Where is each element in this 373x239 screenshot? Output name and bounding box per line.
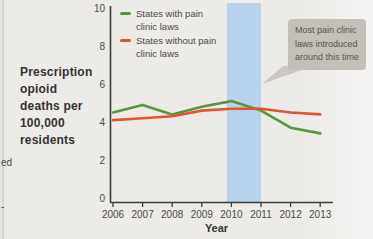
x-tick-label: 2012 <box>279 209 302 220</box>
x-tick-label: 2009 <box>191 209 214 220</box>
legend-label-with-laws: States with pain clinic laws <box>136 7 203 33</box>
x-tick-label: 2008 <box>161 209 184 220</box>
legend-swatch-with-laws-icon <box>120 12 131 16</box>
legend-swatch-without-laws-icon <box>120 39 131 43</box>
x-tick-label: 2006 <box>102 209 125 220</box>
chart-figure: ed - Prescription opioid deaths per 100,… <box>0 0 373 239</box>
annotation-line: around this time <box>295 51 359 65</box>
legend-item-without-laws: States without pain clinic laws <box>120 34 216 60</box>
legend-label-line: States without pain <box>136 34 216 47</box>
y-tick-label: 4 <box>99 117 105 128</box>
x-axis-title: Year <box>113 222 320 234</box>
y-tick-label: 10 <box>94 3 106 14</box>
annotation-callout: Most pain clinic laws introduced around … <box>288 19 366 70</box>
x-tick-label: 2013 <box>309 209 332 220</box>
y-tick-label: 0 <box>99 193 105 204</box>
x-tick-label: 2010 <box>220 209 243 220</box>
legend-label-line: clinic laws <box>136 20 203 33</box>
y-tick-label: 8 <box>99 41 105 52</box>
x-tick-label: 2011 <box>250 209 272 220</box>
y-tick-label: 6 <box>99 79 105 90</box>
annotation-line: laws introduced <box>295 38 359 52</box>
legend: States with pain clinic laws States with… <box>120 7 216 61</box>
legend-label-without-laws: States without pain clinic laws <box>136 34 216 60</box>
y-tick-label: 2 <box>99 155 105 166</box>
annotation-line: Most pain clinic <box>295 24 359 38</box>
highlight-band <box>227 3 261 203</box>
legend-item-with-laws: States with pain clinic laws <box>120 7 216 33</box>
series-line-without-laws <box>113 109 320 120</box>
legend-label-line: States with pain <box>136 7 203 20</box>
legend-label-line: clinic laws <box>136 47 216 60</box>
x-tick-label: 2007 <box>131 209 154 220</box>
